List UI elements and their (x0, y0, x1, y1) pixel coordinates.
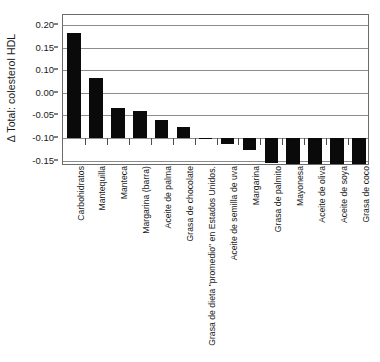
bar (199, 138, 213, 139)
x-axis-tick-label: Grasa de coco (362, 166, 371, 225)
y-axis-tick-label: 0.20 (36, 19, 55, 30)
bar (330, 138, 344, 165)
x-axis-tick-mark (107, 138, 108, 145)
y-axis-tick-label: -0.05 (32, 109, 54, 120)
x-axis-tick-label-text: Mayonesa (296, 166, 305, 208)
x-axis-tick-mark (85, 138, 86, 145)
bar (67, 33, 81, 138)
x-axis-tick-label-text: Grasa de chocolate (186, 166, 195, 243)
x-axis-tick-label-text: Manteca (120, 166, 129, 201)
x-axis-tick-label: Margarina (252, 166, 261, 207)
x-axis-tick-label: Mayonesa (296, 166, 305, 208)
x-axis-tick-labels: CarbohidratosMantequillaMantecaMargarina… (62, 166, 369, 362)
x-axis-tick-label: Mantequilla (98, 166, 107, 213)
x-axis-tick-label-text: Margarina (barra) (142, 166, 151, 236)
x-axis-tick-label: Aceite de soya (340, 166, 349, 225)
baseline-gridline (63, 115, 368, 116)
x-axis-tick-label: Carbohidratos (77, 166, 86, 223)
y-axis-tick-label: -0.10 (32, 132, 54, 143)
x-axis-tick-label-text: Aceite de soya (340, 166, 349, 225)
y-axis-tick-label: 0.10 (36, 64, 55, 75)
gridline (63, 48, 368, 49)
x-axis-tick-label-text: Margarina (252, 166, 261, 207)
bar (243, 138, 257, 150)
x-axis-tick-label-text: Grasa de palmito (274, 166, 283, 234)
x-axis-tick-label-text: Carbohidratos (77, 166, 86, 223)
plot-area (62, 14, 369, 165)
x-axis-tick-label-text: Mantequilla (98, 166, 107, 213)
bar (265, 138, 279, 163)
x-axis-tick-label-text: Aceite de palma (164, 166, 173, 230)
y-axis-tick-mark (54, 24, 58, 25)
y-axis-tick-label: 0.15 (36, 41, 55, 52)
x-axis-tick-label: Aceite de oliva (318, 166, 327, 225)
bar (155, 120, 169, 138)
y-axis-tick-labels: 0.200.150.100.00-0.05-0.10-0.15 (22, 0, 58, 181)
x-axis-tick-mark (326, 138, 327, 145)
y-axis-tick-mark (54, 114, 58, 115)
bar (89, 78, 103, 138)
x-axis-tick-label: Aceite de semilla de uva (230, 166, 239, 262)
gridline (63, 93, 368, 94)
x-axis-tick-label-text: Aceite de oliva (318, 166, 327, 225)
y-axis-tick-mark (54, 69, 58, 70)
chart-figure: Δ Total: colesterol HDL 0.200.150.100.00… (0, 0, 380, 362)
x-axis-tick-mark (304, 138, 305, 145)
y-axis-title-text: Δ Total: colesterol HDL (5, 33, 17, 142)
x-axis-tick-mark (195, 138, 196, 145)
x-axis-tick-mark (282, 138, 283, 145)
x-axis-tick-label: Manteca (120, 166, 129, 201)
x-axis-tick-label-text: Grasa de coco (362, 166, 371, 225)
bar (352, 138, 366, 165)
x-axis-tick-label: Aceite de palma (164, 166, 173, 230)
x-axis-tick-label: Margarina (barra) (142, 166, 151, 236)
x-axis-tick-mark (151, 138, 152, 145)
x-axis-tick-mark (238, 138, 239, 145)
x-axis-tick-label-text: Grasa de dieta "promedio" en Estados Uni… (208, 166, 217, 348)
x-axis-tick-label-text: Aceite de semilla de uva (230, 166, 239, 262)
x-axis-tick-label: Grasa de palmito (274, 166, 283, 234)
y-axis-tick-mark (54, 91, 58, 92)
gridline (63, 161, 368, 162)
y-axis-tick-label: -0.15 (32, 154, 54, 165)
y-axis-title: Δ Total: colesterol HDL (0, 0, 22, 175)
bar (177, 127, 191, 138)
x-axis-tick-mark (348, 138, 349, 145)
gridline (63, 25, 368, 26)
y-axis-tick-mark (54, 46, 58, 47)
x-axis-tick-mark (129, 138, 130, 145)
bar (308, 138, 322, 165)
bar (133, 111, 147, 138)
bar (221, 138, 235, 144)
y-axis-tick-mark (54, 159, 58, 160)
y-axis-tick-mark (54, 137, 58, 138)
gridline (63, 70, 368, 71)
bar (286, 138, 300, 165)
y-axis-tick-label: 0.00 (36, 86, 55, 97)
x-axis-tick-label: Grasa de dieta "promedio" en Estados Uni… (208, 166, 217, 348)
gridline (63, 138, 368, 139)
x-axis-tick-mark (173, 138, 174, 145)
x-axis-tick-mark (260, 138, 261, 145)
bar (111, 108, 125, 138)
x-axis-tick-label: Grasa de chocolate (186, 166, 195, 243)
x-axis-tick-mark (217, 138, 218, 145)
